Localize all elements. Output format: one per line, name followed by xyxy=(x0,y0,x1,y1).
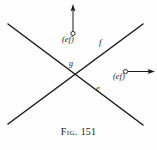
vector-up-label: (ef) xyxy=(62,35,74,44)
figure-151: f e g (ef) (ef) Fig. 151 xyxy=(0,0,157,150)
vector-right-label: (ef) xyxy=(113,72,125,81)
point-g-label: g xyxy=(69,60,73,68)
figure-caption: Fig. 151 xyxy=(0,126,157,137)
figure-caption-prefix: Fig. xyxy=(61,126,78,137)
line-e-label: e xyxy=(96,84,100,93)
line-f-label: f xyxy=(99,38,102,47)
figure-caption-number: 151 xyxy=(81,126,97,137)
